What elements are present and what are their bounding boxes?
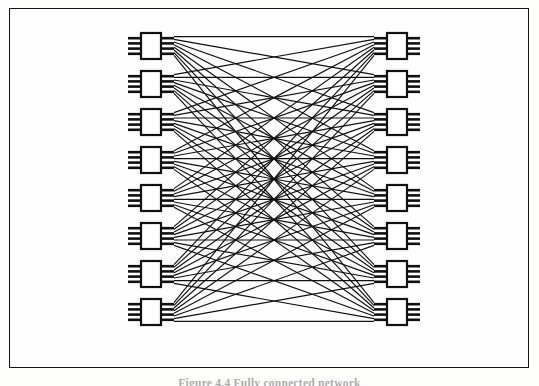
module-body xyxy=(141,109,161,135)
module-body xyxy=(387,147,407,173)
fully-connected-network-diagram xyxy=(0,0,539,386)
module-body xyxy=(387,185,407,211)
ic-module xyxy=(128,33,174,59)
interconnection-link-layer xyxy=(174,37,374,322)
module-body xyxy=(387,71,407,97)
ic-module xyxy=(374,299,420,325)
module-body xyxy=(141,33,161,59)
module-body xyxy=(141,185,161,211)
ic-module xyxy=(374,223,420,249)
ic-module xyxy=(128,147,174,173)
module-body xyxy=(141,261,161,287)
module-body xyxy=(141,71,161,97)
ic-module xyxy=(374,71,420,97)
ic-module xyxy=(128,299,174,325)
module-body xyxy=(387,33,407,59)
figure-caption: Figure 4.4 Fully connected network xyxy=(0,377,539,386)
ic-module xyxy=(128,223,174,249)
right-module-column xyxy=(374,33,420,325)
ic-module xyxy=(128,261,174,287)
ic-module xyxy=(374,185,420,211)
ic-module xyxy=(374,261,420,287)
ic-module xyxy=(128,71,174,97)
module-body xyxy=(387,261,407,287)
module-body xyxy=(141,223,161,249)
module-body xyxy=(387,109,407,135)
ic-module xyxy=(374,33,420,59)
ic-module xyxy=(374,109,420,135)
module-body xyxy=(387,223,407,249)
ic-module xyxy=(128,109,174,135)
ic-module xyxy=(128,185,174,211)
ic-module xyxy=(374,147,420,173)
module-body xyxy=(387,299,407,325)
module-body xyxy=(141,299,161,325)
left-module-column xyxy=(128,33,174,325)
module-body xyxy=(141,147,161,173)
